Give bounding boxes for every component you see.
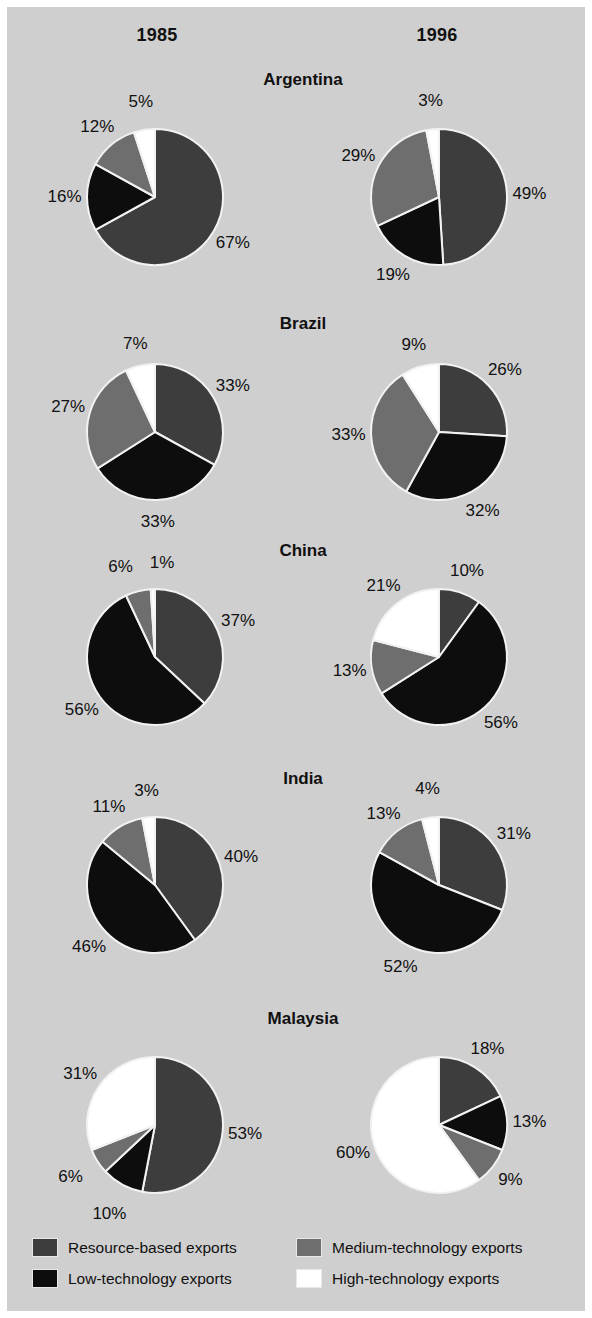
legend-swatch-high-icon bbox=[296, 1269, 322, 1288]
year-header-1985: 1985 bbox=[97, 25, 217, 46]
pct-label-high: 60% bbox=[336, 1143, 370, 1163]
pct-label-high: 7% bbox=[123, 334, 148, 354]
country-title-india: India bbox=[183, 769, 423, 789]
chart-legend: Resource-based exportsLow-technology exp… bbox=[24, 1232, 568, 1300]
pie-india-1996 bbox=[366, 812, 512, 958]
pct-label-resource: 10% bbox=[450, 561, 484, 581]
legend-item-resource[interactable]: Resource-based exports bbox=[32, 1238, 237, 1257]
pct-label-low: 33% bbox=[141, 512, 175, 532]
pie-brazil-1996 bbox=[366, 359, 512, 505]
pie-argentina-1996 bbox=[366, 124, 512, 270]
legend-swatch-resource-icon bbox=[32, 1238, 58, 1257]
pct-label-high: 3% bbox=[418, 91, 443, 111]
pie-china-1985 bbox=[82, 584, 228, 730]
pct-label-high: 9% bbox=[401, 335, 426, 355]
pct-label-low: 13% bbox=[512, 1112, 546, 1132]
pct-label-resource: 40% bbox=[224, 847, 258, 867]
legend-item-low[interactable]: Low-technology exports bbox=[32, 1269, 232, 1288]
pct-label-medium: 11% bbox=[93, 797, 126, 817]
pct-label-medium: 29% bbox=[341, 146, 375, 166]
pct-label-high: 4% bbox=[415, 779, 440, 799]
country-title-argentina: Argentina bbox=[183, 70, 423, 90]
pct-label-resource: 53% bbox=[228, 1124, 262, 1144]
pct-label-medium: 27% bbox=[51, 397, 85, 417]
pct-label-medium: 33% bbox=[332, 425, 366, 445]
pct-label-low: 52% bbox=[383, 957, 417, 977]
country-title-brazil: Brazil bbox=[183, 314, 423, 334]
pie-malaysia-1985 bbox=[82, 1052, 228, 1198]
pct-label-resource: 33% bbox=[216, 376, 250, 396]
pct-label-high: 1% bbox=[150, 553, 175, 573]
pct-label-medium: 6% bbox=[108, 557, 133, 577]
pie-brazil-1985 bbox=[82, 359, 228, 505]
year-header-1996: 1996 bbox=[377, 25, 497, 46]
pct-label-high: 21% bbox=[367, 576, 401, 596]
pct-label-resource: 31% bbox=[497, 824, 531, 844]
pct-label-resource: 26% bbox=[488, 360, 522, 380]
pct-label-low: 56% bbox=[484, 713, 518, 733]
pie-malaysia-1996 bbox=[366, 1052, 512, 1198]
pct-label-high: 3% bbox=[134, 781, 159, 801]
pct-label-resource: 37% bbox=[221, 611, 255, 631]
pct-label-high: 5% bbox=[129, 92, 154, 112]
pct-label-low: 32% bbox=[466, 501, 500, 521]
legend-item-medium[interactable]: Medium-technology exports bbox=[296, 1238, 522, 1257]
pct-label-resource: 49% bbox=[512, 184, 546, 204]
pct-label-medium: 12% bbox=[80, 117, 114, 137]
pct-label-medium: 13% bbox=[333, 661, 367, 681]
legend-label-low: Low-technology exports bbox=[68, 1270, 232, 1288]
pct-label-resource: 67% bbox=[216, 233, 250, 253]
legend-item-high[interactable]: High-technology exports bbox=[296, 1269, 499, 1288]
pct-label-low: 16% bbox=[48, 187, 82, 207]
legend-label-medium: Medium-technology exports bbox=[332, 1239, 522, 1257]
pct-label-low: 10% bbox=[92, 1204, 126, 1224]
country-title-malaysia: Malaysia bbox=[183, 1009, 423, 1029]
pie-argentina-1985 bbox=[82, 124, 228, 270]
legend-label-resource: Resource-based exports bbox=[68, 1239, 237, 1257]
pct-label-low: 19% bbox=[376, 265, 410, 285]
pct-label-low: 56% bbox=[65, 700, 99, 720]
country-title-china: China bbox=[183, 541, 423, 561]
pct-label-medium: 9% bbox=[498, 1170, 523, 1190]
plot-area: 1985 1996 Argentina67%16%12%5%49%19%29%3… bbox=[7, 7, 585, 1311]
legend-swatch-medium-icon bbox=[296, 1238, 322, 1257]
pie-slice-resource bbox=[439, 129, 507, 265]
pct-label-low: 46% bbox=[72, 937, 106, 957]
legend-label-high: High-technology exports bbox=[332, 1270, 499, 1288]
pct-label-medium: 6% bbox=[58, 1167, 83, 1187]
pie-chart-figure: 1985 1996 Argentina67%16%12%5%49%19%29%3… bbox=[0, 0, 592, 1318]
pct-label-medium: 13% bbox=[367, 804, 401, 824]
pie-china-1996 bbox=[366, 584, 512, 730]
legend-swatch-low-icon bbox=[32, 1269, 58, 1288]
pct-label-high: 31% bbox=[63, 1064, 97, 1084]
pct-label-resource: 18% bbox=[470, 1039, 504, 1059]
